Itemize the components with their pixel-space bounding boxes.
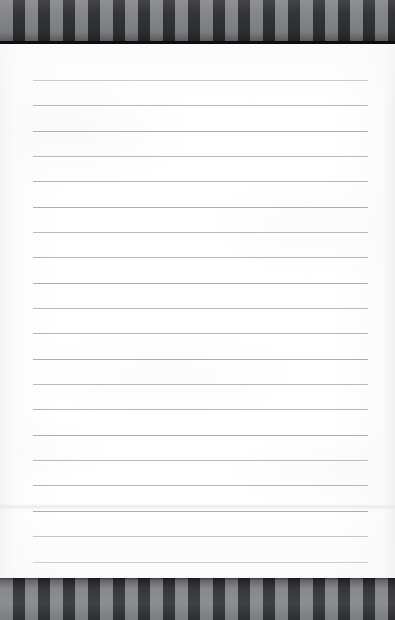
backdrop-stripe	[50, 0, 63, 44]
ruled-line	[33, 460, 368, 461]
backdrop-stripe	[175, 0, 188, 44]
backdrop-stripe	[313, 578, 326, 620]
stripe-pattern-top	[0, 0, 395, 44]
ruled-line	[33, 562, 368, 563]
ruled-line	[33, 409, 368, 410]
backdrop-stripe	[350, 0, 363, 44]
backdrop-stripe	[313, 0, 326, 44]
backdrop-stripe	[163, 0, 176, 44]
ruled-line	[33, 156, 368, 157]
backdrop-stripe	[88, 578, 101, 620]
ruled-line	[33, 257, 368, 258]
backdrop-stripe	[25, 578, 38, 620]
backdrop-stripe	[38, 0, 51, 44]
ruled-line	[33, 105, 368, 106]
backdrop-stripe	[375, 578, 388, 620]
backdrop-stripe	[63, 0, 76, 44]
backdrop-stripe	[150, 578, 163, 620]
backdrop-stripe	[163, 578, 176, 620]
backdrop-stripe	[263, 0, 276, 44]
ruled-line	[33, 80, 368, 81]
ruled-line	[33, 131, 368, 132]
ruled-line	[33, 485, 368, 486]
backdrop-stripe	[25, 0, 38, 44]
backdrop-stripe	[275, 578, 288, 620]
backdrop-stripe	[38, 578, 51, 620]
backdrop-stripe	[288, 578, 301, 620]
ruled-line	[33, 207, 368, 208]
backdrop-stripe	[113, 578, 126, 620]
backdrop-stripe	[300, 0, 313, 44]
backdrop-stripe	[138, 578, 151, 620]
backdrop-stripe	[75, 0, 88, 44]
ruled-line	[33, 283, 368, 284]
backdrop-stripe	[175, 578, 188, 620]
ruled-line	[33, 435, 368, 436]
backdrop-stripe	[213, 0, 226, 44]
backdrop-stripe	[238, 578, 251, 620]
backdrop-stripe	[125, 578, 138, 620]
notepad-photo	[0, 0, 395, 620]
backdrop-stripe	[300, 578, 313, 620]
backdrop-stripe	[138, 0, 151, 44]
backdrop-stripe	[100, 0, 113, 44]
ruled-lines-group	[0, 44, 395, 578]
backdrop-stripe	[325, 578, 338, 620]
backdrop-stripe	[325, 0, 338, 44]
backdrop-stripe	[150, 0, 163, 44]
backdrop-stripe	[0, 578, 13, 620]
backdrop-stripe	[100, 578, 113, 620]
backdrop-stripe	[225, 0, 238, 44]
backdrop-stripe	[250, 578, 263, 620]
backdrop-stripe	[75, 578, 88, 620]
backdrop-stripe	[388, 578, 395, 620]
backdrop-stripe	[200, 578, 213, 620]
backdrop-stripe	[213, 578, 226, 620]
ruled-line	[33, 536, 368, 537]
notepad-page	[0, 44, 395, 578]
backdrop-stripe	[188, 0, 201, 44]
backdrop-stripe	[350, 578, 363, 620]
backdrop-stripe	[363, 0, 376, 44]
backdrop-stripe	[13, 0, 26, 44]
stripe-pattern-bottom	[0, 578, 395, 620]
ruled-line	[33, 232, 368, 233]
backdrop-stripe	[188, 578, 201, 620]
backdrop-stripe	[113, 0, 126, 44]
ruled-line	[33, 384, 368, 385]
backdrop-stripe	[338, 578, 351, 620]
backdrop-stripe	[263, 578, 276, 620]
backdrop-stripe	[88, 0, 101, 44]
backdrop-stripe	[250, 0, 263, 44]
backdrop-stripe	[200, 0, 213, 44]
backdrop-stripe	[275, 0, 288, 44]
ruled-line	[33, 511, 368, 512]
backdrop-stripe	[388, 0, 395, 44]
ruled-line	[33, 308, 368, 309]
backdrop-stripe	[50, 578, 63, 620]
backdrop-stripe	[63, 578, 76, 620]
ruled-line	[33, 181, 368, 182]
backdrop-stripe	[338, 0, 351, 44]
ruled-line	[33, 333, 368, 334]
backdrop-stripe	[288, 0, 301, 44]
backdrop-stripe	[13, 578, 26, 620]
striped-backdrop-top	[0, 0, 395, 44]
backdrop-stripe	[375, 0, 388, 44]
backdrop-stripe	[363, 578, 376, 620]
backdrop-stripe	[0, 0, 13, 44]
backdrop-stripe	[225, 578, 238, 620]
backdrop-stripe	[238, 0, 251, 44]
backdrop-stripe	[125, 0, 138, 44]
striped-backdrop-bottom	[0, 578, 395, 620]
ruled-line	[33, 359, 368, 360]
